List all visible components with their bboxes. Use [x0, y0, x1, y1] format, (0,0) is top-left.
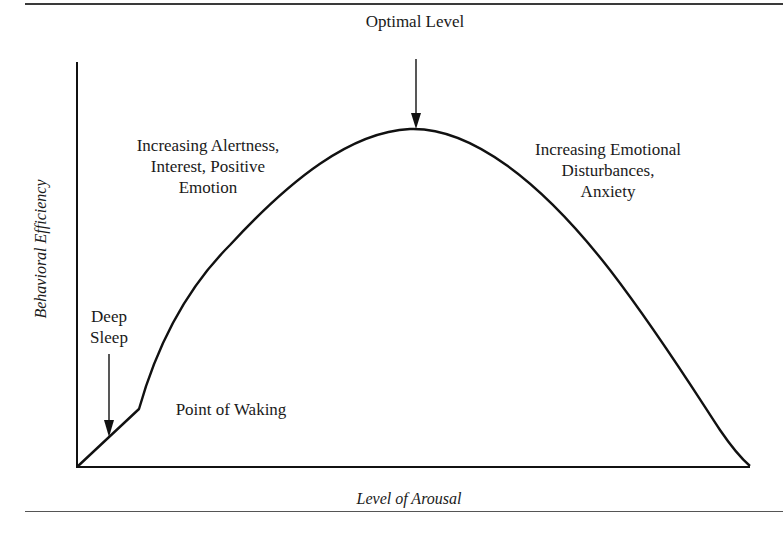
optimal-arrowhead-icon: [411, 113, 421, 129]
y-axis-label: Behavioral Efficiency: [32, 179, 50, 318]
inverted-u-diagram: [0, 0, 783, 538]
point-of-waking-label: Point of Waking: [152, 399, 310, 420]
deep-sleep-label: Deep Sleep: [84, 306, 134, 348]
optimal-level-label: Optimal Level: [360, 11, 470, 32]
rising-phase-label: Increasing Alertness, Interest, Positive…: [108, 135, 308, 198]
falling-phase-label: Increasing Emotional Disturbances, Anxie…: [492, 139, 724, 202]
x-axis-label: Level of Arousal: [330, 488, 488, 509]
bottom-rule: [25, 511, 783, 512]
